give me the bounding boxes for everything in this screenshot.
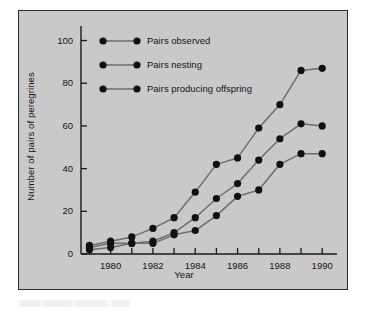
data-point	[149, 225, 156, 232]
data-point	[128, 233, 135, 240]
x-tick-label: 1988	[260, 260, 300, 271]
series-2	[86, 120, 326, 251]
x-tick-label: 1984	[175, 260, 215, 271]
data-point	[297, 67, 304, 74]
data-point	[213, 161, 220, 168]
data-point	[170, 214, 177, 221]
series-line	[89, 154, 322, 250]
data-point	[276, 101, 283, 108]
data-point	[255, 156, 262, 163]
figure-container: Number of pairs of peregrines Year 02040…	[0, 0, 367, 316]
y-tick-label: 40	[43, 163, 73, 174]
chart-panel: Number of pairs of peregrines Year 02040…	[18, 10, 348, 290]
data-point	[86, 246, 93, 253]
data-point	[319, 150, 326, 157]
data-point	[128, 240, 135, 247]
data-point	[213, 195, 220, 202]
data-point	[255, 124, 262, 131]
x-tick-label: 1990	[302, 260, 342, 271]
data-point	[319, 65, 326, 72]
legend-entry-label: Pairs nesting	[147, 59, 202, 70]
y-axis-title: Number of pairs of peregrines	[25, 42, 36, 232]
data-point	[192, 189, 199, 196]
data-point	[107, 244, 114, 251]
data-point	[149, 240, 156, 247]
data-point	[213, 212, 220, 219]
data-point	[297, 120, 304, 127]
data-point	[170, 231, 177, 238]
y-tick-label: 80	[43, 77, 73, 88]
legend-marker	[133, 61, 140, 68]
axes-group	[81, 26, 337, 254]
data-point	[192, 214, 199, 221]
y-tick-label: 0	[43, 248, 73, 259]
legend-marker	[133, 85, 140, 92]
legend-marker	[99, 85, 106, 92]
caption-remnant	[20, 300, 130, 307]
legend-marker	[99, 61, 106, 68]
legend-markers	[99, 37, 140, 92]
data-point	[255, 186, 262, 193]
data-point	[192, 227, 199, 234]
legend-entry-label: Pairs producing offspring	[147, 83, 252, 94]
series-line	[89, 68, 322, 245]
series-line	[89, 124, 322, 248]
data-point	[234, 180, 241, 187]
y-tick-label: 20	[43, 205, 73, 216]
x-tick-label: 1986	[218, 260, 258, 271]
y-tick-label: 100	[43, 35, 73, 46]
data-point	[234, 154, 241, 161]
x-tick-label: 1982	[133, 260, 173, 271]
data-point	[276, 161, 283, 168]
data-point	[234, 193, 241, 200]
y-tick-label: 60	[43, 120, 73, 131]
data-point	[319, 122, 326, 129]
data-point	[297, 150, 304, 157]
data-point	[276, 135, 283, 142]
legend-marker	[99, 37, 106, 44]
series-3	[86, 150, 326, 253]
legend-entry-label: Pairs observed	[147, 35, 210, 46]
legend-marker	[133, 37, 140, 44]
x-tick-label: 1980	[91, 260, 131, 271]
